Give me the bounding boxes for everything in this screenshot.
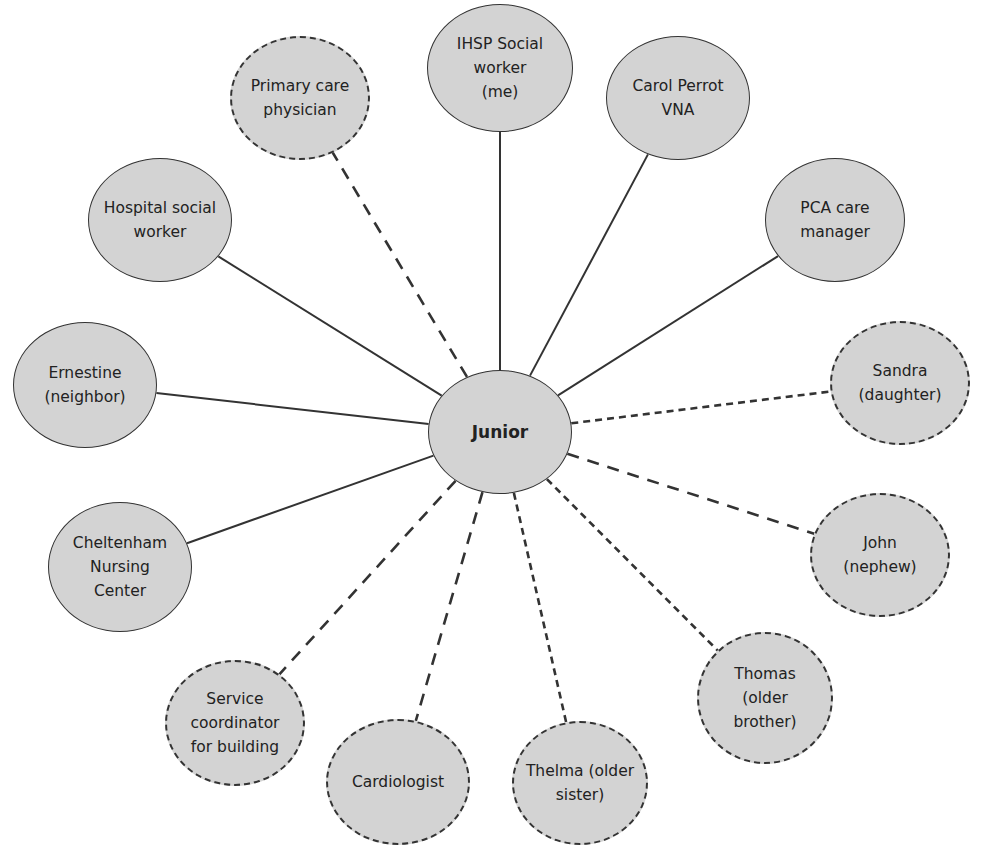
node-thelma: Thelma (older sister) bbox=[512, 721, 648, 845]
node-ernestine: Ernestine (neighbor) bbox=[13, 322, 157, 448]
node-label: Cardiologist bbox=[352, 770, 444, 794]
node-cheltenham-nursing-center: Cheltenham Nursing Center bbox=[48, 502, 192, 632]
ecomap-diagram: Junior IHSP Social worker (me) Primary c… bbox=[0, 0, 1000, 866]
node-label: Service coordinator for building bbox=[191, 687, 280, 759]
node-label: Hospital social worker bbox=[104, 196, 216, 244]
connector-cheltenham bbox=[187, 456, 433, 544]
connector-pca bbox=[558, 256, 778, 395]
node-junior: Junior bbox=[428, 370, 572, 494]
connector-ernestine bbox=[156, 393, 428, 424]
node-sandra: Sandra (daughter) bbox=[830, 321, 970, 445]
node-label: Carol Perrot VNA bbox=[632, 74, 723, 122]
node-primary-care-physician: Primary care physician bbox=[230, 36, 370, 160]
node-label: Cheltenham Nursing Center bbox=[73, 531, 167, 603]
node-ihsp-social-worker: IHSP Social worker (me) bbox=[427, 4, 573, 132]
node-cardiologist: Cardiologist bbox=[326, 719, 470, 845]
node-pca-care-manager: PCA care manager bbox=[765, 158, 905, 282]
connector-primary-care bbox=[333, 153, 467, 377]
connector-cardiologist bbox=[416, 492, 483, 721]
node-label: Primary care physician bbox=[251, 74, 349, 122]
connector-service bbox=[279, 481, 455, 674]
node-thomas: Thomas (older brother) bbox=[697, 632, 833, 764]
connector-thelma bbox=[514, 493, 566, 722]
node-label: John (nephew) bbox=[843, 531, 916, 579]
node-label: Ernestine (neighbor) bbox=[44, 361, 125, 409]
node-john: John (nephew) bbox=[810, 493, 950, 617]
node-service-coordinator: Service coordinator for building bbox=[165, 660, 305, 786]
connector-carol bbox=[530, 154, 648, 375]
node-label: PCA care manager bbox=[800, 196, 870, 244]
node-label: Thelma (older sister) bbox=[526, 759, 634, 807]
node-hospital-social-worker: Hospital social worker bbox=[88, 158, 232, 282]
node-label: IHSP Social worker (me) bbox=[457, 32, 543, 104]
node-label: Sandra (daughter) bbox=[859, 359, 942, 407]
connector-sandra bbox=[571, 391, 830, 423]
connector-john bbox=[567, 454, 814, 534]
node-carol-perrot-vna: Carol Perrot VNA bbox=[606, 36, 750, 160]
connector-thomas bbox=[547, 479, 718, 650]
node-label: Junior bbox=[472, 419, 528, 445]
node-label: Thomas (older brother) bbox=[733, 662, 796, 734]
